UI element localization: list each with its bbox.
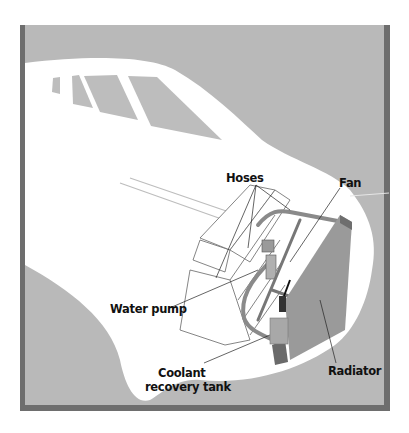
label-coolant-recovery-tank-line2: recovery tank bbox=[145, 380, 232, 394]
label-water-pump: Water pump bbox=[110, 302, 187, 316]
label-fan: Fan bbox=[339, 176, 361, 190]
cooling-system-diagram: Hoses Fan Water pump Coolant recovery ta… bbox=[0, 0, 409, 433]
label-hoses: Hoses bbox=[226, 171, 264, 185]
label-coolant-recovery-tank-line1: Coolant bbox=[158, 366, 206, 380]
label-radiator: Radiator bbox=[328, 364, 382, 378]
